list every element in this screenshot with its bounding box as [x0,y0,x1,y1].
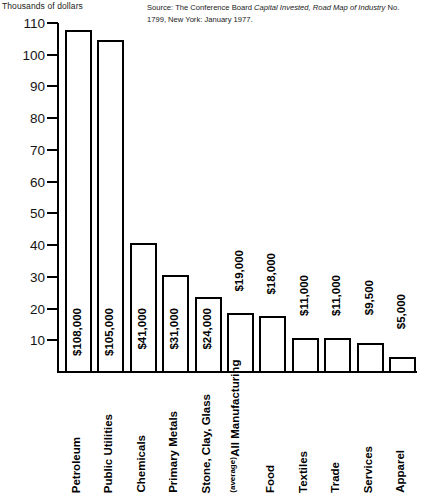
category-label: Apparel [394,450,406,493]
category-label: Textiles [297,451,309,493]
plot-area: 110100908070605040302010 $108,000$105,00… [0,0,422,380]
bar-value-label: $5,000 [395,294,407,329]
category-label: Petroleum [70,437,82,493]
y-axis-tick [47,85,58,87]
y-axis-tick [47,149,58,151]
bar-value-label: $24,000 [201,308,213,350]
y-axis-tick [47,181,58,183]
y-axis-tick [47,117,58,119]
bar[interactable] [292,338,319,373]
bar-value-label: $19,000 [233,250,245,292]
bars-layer: $108,000$105,000$41,000$31,000$24,000$19… [0,0,422,373]
bar-value-label: $9,500 [363,280,375,315]
y-axis-tick [47,212,58,214]
category-label: Chemicals [135,435,147,493]
bar-value-label: $41,000 [136,308,148,350]
bar-value-label: $11,000 [298,275,310,316]
y-axis-tick [47,276,58,278]
category-labels: PetroleumPublic UtilitiesChemicalsPrimar… [0,373,422,495]
bar-value-label: $105,000 [103,308,115,356]
category-label: Stone, Clay, Glass [200,394,212,494]
category-label: Trade [329,462,341,493]
category-label: Public Utilities [102,414,114,493]
category-label: All Manufacturing(average) [229,360,241,493]
bar-value-label: $108,000 [71,308,83,356]
category-label: Services [362,446,374,493]
y-axis-tick [47,308,58,310]
bar-value-label: $18,000 [265,253,277,295]
bar-value-label: $31,000 [168,308,180,350]
y-axis-tick [47,54,58,56]
bar[interactable] [259,316,286,373]
category-label-main: All Manufacturing [229,360,241,457]
y-axis-tick [47,244,58,246]
bar[interactable] [324,338,351,373]
category-label-sublabel: (average) [229,457,237,493]
bar[interactable] [357,343,384,373]
y-axis-tick [47,339,58,341]
y-axis-tick [47,22,58,24]
bar[interactable] [389,357,416,373]
category-label: Primary Metals [167,411,179,493]
bar-value-label: $11,000 [330,275,342,316]
category-label: Food [264,465,276,493]
chart-figure: Thousands of dollars Source: The Confere… [0,0,422,495]
